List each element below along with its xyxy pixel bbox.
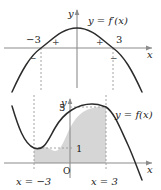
origin-label: O xyxy=(63,166,70,176)
top-sign-right-negative: − xyxy=(110,53,118,63)
derivative-graph-group: y = f′(x) y x −3 3 − + + − xyxy=(4,8,153,92)
top-sign-left-positive: + xyxy=(52,37,60,47)
math-figure: y = f′(x) y x −3 3 − + + − xyxy=(0,0,161,190)
value-label-one: 1 xyxy=(76,143,82,154)
function-graph-group: y = f(x) y x O 1 5 x = −3 x = 3 xyxy=(4,95,153,187)
guide-label-x-equals-three: x = 3 xyxy=(91,176,118,187)
top-sign-left-negative: − xyxy=(29,53,37,63)
guide-label-x-equals-minus-three: x = −3 xyxy=(16,176,51,187)
function-curve-label: y = f(x) xyxy=(114,109,153,120)
value-label-five: 5 xyxy=(59,102,65,113)
bottom-x-axis-label: x xyxy=(147,164,153,175)
top-y-axis-label: y xyxy=(67,8,74,19)
top-tick-label-three: 3 xyxy=(116,34,122,45)
top-sign-right-positive: + xyxy=(96,37,104,47)
top-tick-label-minus-three: −3 xyxy=(26,34,41,45)
top-y-axis-arrow xyxy=(75,9,80,15)
top-x-axis-label: x xyxy=(147,49,153,60)
bottom-y-axis-arrow xyxy=(68,98,73,104)
derivative-curve-label: y = f′(x) xyxy=(87,15,128,26)
figure-canvas: y = f′(x) y x −3 3 − + + − xyxy=(0,0,161,190)
